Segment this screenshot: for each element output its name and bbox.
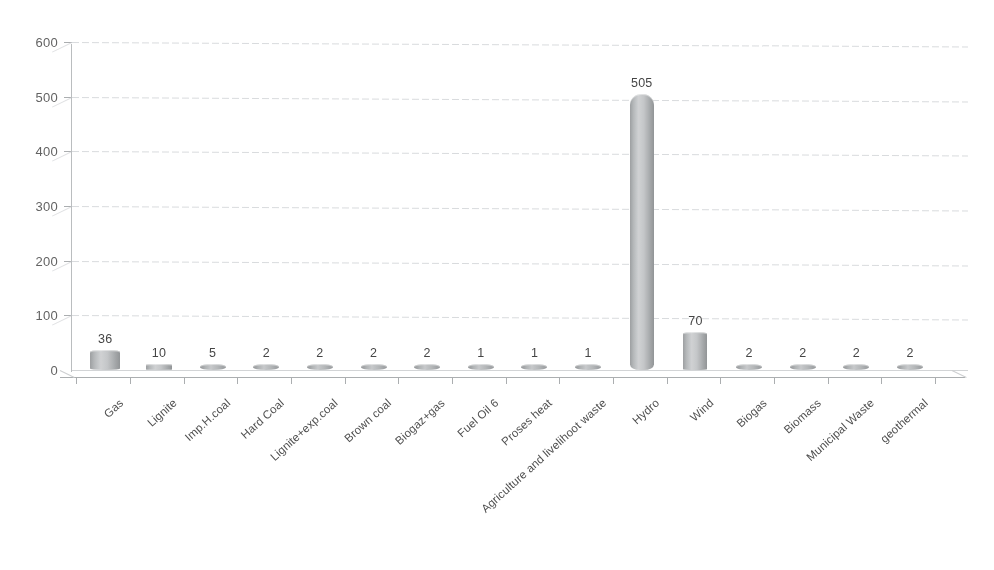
bar-12 bbox=[736, 364, 762, 371]
y-axis-label-0: 0 bbox=[50, 363, 58, 378]
x-tick-1 bbox=[184, 377, 185, 384]
bar-4 bbox=[307, 364, 333, 371]
bar-value-2: 5 bbox=[209, 346, 216, 360]
y-axis-label-300: 300 bbox=[35, 199, 58, 214]
category-label-10: Hydro bbox=[630, 397, 661, 427]
x-axis-line bbox=[60, 377, 965, 378]
x-tick-8 bbox=[559, 377, 560, 384]
bar-value-14: 2 bbox=[853, 346, 860, 360]
x-tick-5 bbox=[398, 377, 399, 384]
category-label-1: Lignite bbox=[145, 397, 179, 429]
x-tick-0 bbox=[130, 377, 131, 384]
x-tick-13 bbox=[828, 377, 829, 384]
floor-left-edge bbox=[60, 370, 74, 378]
bar-chart: 0100200300400500600 36105222211150570222… bbox=[0, 0, 994, 570]
x-tick-9 bbox=[613, 377, 614, 384]
bar-value-11: 70 bbox=[688, 314, 702, 328]
bar-13 bbox=[790, 364, 816, 371]
plot-area bbox=[72, 42, 968, 370]
y-axis-label-100: 100 bbox=[35, 308, 58, 323]
x-tick-14 bbox=[881, 377, 882, 384]
x-tick-6 bbox=[452, 377, 453, 384]
bar-value-6: 2 bbox=[424, 346, 431, 360]
category-label-2: Imp.H.coal bbox=[183, 397, 233, 444]
bar-value-1: 10 bbox=[152, 346, 166, 360]
bar-value-12: 2 bbox=[746, 346, 753, 360]
bar-11 bbox=[683, 332, 707, 370]
bar-value-10: 505 bbox=[631, 76, 652, 90]
bar-value-4: 2 bbox=[316, 346, 323, 360]
bar-value-3: 2 bbox=[263, 346, 270, 360]
bar-8 bbox=[521, 364, 547, 371]
gridline-500 bbox=[72, 97, 968, 102]
y-axis-line bbox=[71, 44, 72, 372]
x-tick-2 bbox=[237, 377, 238, 384]
bar-10 bbox=[630, 94, 654, 370]
gridline-400 bbox=[72, 151, 968, 156]
bar-6 bbox=[414, 364, 440, 371]
gridline-300 bbox=[72, 206, 968, 211]
x-tick-4 bbox=[345, 377, 346, 384]
category-label-15: geothermal bbox=[878, 397, 930, 445]
bar-3 bbox=[253, 364, 279, 371]
floor-right-edge bbox=[952, 370, 968, 378]
bar-value-8: 1 bbox=[531, 346, 538, 360]
bar-value-9: 1 bbox=[585, 346, 592, 360]
bar-7 bbox=[468, 364, 494, 371]
bar-9 bbox=[575, 364, 601, 371]
gridline-200 bbox=[72, 261, 968, 266]
bar-1 bbox=[146, 364, 172, 371]
category-label-7: Fuel Oil 6 bbox=[455, 397, 501, 440]
y-axis-label-600: 600 bbox=[35, 35, 58, 50]
gridline-600 bbox=[72, 42, 968, 47]
bar-15 bbox=[897, 364, 923, 371]
x-tick-10 bbox=[667, 377, 668, 384]
bar-value-5: 2 bbox=[370, 346, 377, 360]
bar-value-7: 1 bbox=[477, 346, 484, 360]
x-tick-3 bbox=[291, 377, 292, 384]
category-label-0: Gas bbox=[101, 397, 125, 420]
category-label-13: Biomass bbox=[781, 397, 823, 436]
category-label-3: Hard Coal bbox=[239, 397, 287, 441]
y-axis-label-500: 500 bbox=[35, 89, 58, 104]
bar-5 bbox=[361, 364, 387, 371]
category-label-11: Wind bbox=[688, 397, 716, 424]
x-tick-origin bbox=[76, 377, 77, 384]
category-label-6: Biogaz+gas bbox=[393, 397, 447, 447]
x-tick-12 bbox=[774, 377, 775, 384]
bar-0 bbox=[90, 350, 120, 370]
bar-14 bbox=[843, 364, 869, 371]
gridline-100 bbox=[72, 315, 968, 320]
y-axis-label-400: 400 bbox=[35, 144, 58, 159]
x-tick-15 bbox=[935, 377, 936, 384]
bar-value-13: 2 bbox=[799, 346, 806, 360]
x-axis-back-edge bbox=[72, 370, 968, 371]
bar-value-0: 36 bbox=[98, 332, 112, 346]
category-label-8: Proses heat bbox=[500, 397, 555, 448]
y-axis-label-200: 200 bbox=[35, 253, 58, 268]
bar-2 bbox=[200, 364, 226, 371]
x-tick-7 bbox=[506, 377, 507, 384]
bar-value-15: 2 bbox=[906, 346, 913, 360]
x-tick-11 bbox=[720, 377, 721, 384]
category-label-5: Brown coal bbox=[342, 397, 393, 445]
category-label-12: Biogas bbox=[734, 397, 769, 430]
